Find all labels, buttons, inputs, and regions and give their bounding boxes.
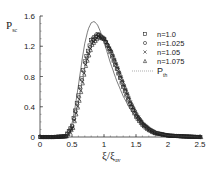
y-tick-label: 0.8 bbox=[24, 73, 36, 82]
y-axis-label: Psc bbox=[6, 19, 17, 33]
x-tick-label: 1.5 bbox=[130, 140, 142, 149]
x-axis-label: ξ/ξav bbox=[102, 149, 121, 163]
x-tick-label: 0 bbox=[38, 140, 43, 149]
axes: 00.511.522.500.40.81.21.6 bbox=[24, 12, 206, 149]
svg-text:n=1.05: n=1.05 bbox=[157, 48, 180, 57]
svg-text:n=1.025: n=1.025 bbox=[157, 39, 184, 48]
svg-text:n=1.0: n=1.0 bbox=[157, 30, 176, 39]
legend-item: Pth bbox=[132, 66, 167, 78]
x-tick-label: 0.5 bbox=[66, 140, 78, 149]
y-tick-label: 1.2 bbox=[24, 42, 36, 51]
x-tick-label: 2.5 bbox=[194, 140, 206, 149]
legend-item: n=1.05 bbox=[143, 48, 180, 57]
svg-text:Pth: Pth bbox=[157, 66, 167, 78]
legend: n=1.0n=1.025n=1.05n=1.075Pth bbox=[132, 30, 184, 78]
legend-item: n=1.075 bbox=[143, 57, 184, 66]
chart: 00.511.522.500.40.81.21.6 n=1.0n=1.025n=… bbox=[0, 0, 217, 170]
y-tick-label: 1.6 bbox=[24, 12, 36, 21]
x-tick-label: 1 bbox=[102, 140, 107, 149]
y-tick-label: 0.4 bbox=[24, 103, 36, 112]
legend-item: n=1.025 bbox=[143, 39, 184, 48]
y-tick-label: 0 bbox=[31, 133, 36, 142]
legend-item: n=1.0 bbox=[143, 30, 176, 39]
svg-text:n=1.075: n=1.075 bbox=[157, 57, 184, 66]
x-tick-label: 2 bbox=[166, 140, 171, 149]
